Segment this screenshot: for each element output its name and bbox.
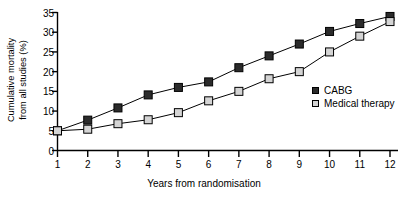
x-tick-label: 9 xyxy=(287,159,311,170)
x-tick-label: 5 xyxy=(166,159,190,170)
x-tick-label: 10 xyxy=(318,159,342,170)
x-tick-label: 2 xyxy=(76,159,100,170)
open-square-icon xyxy=(312,100,319,107)
x-axis-title: Years from randomisation xyxy=(0,178,408,189)
x-tick-label: 12 xyxy=(378,159,402,170)
legend-item-cabg: CABG xyxy=(312,84,395,97)
x-tick-label: 8 xyxy=(257,159,281,170)
filled-square-icon xyxy=(312,87,319,94)
legend-label: CABG xyxy=(324,85,352,96)
x-tick-label: 4 xyxy=(136,159,160,170)
chart-figure: Cumulative mortality from all studies (%… xyxy=(0,0,408,200)
x-tick-label: 6 xyxy=(197,159,221,170)
legend-label: Medical therapy xyxy=(324,98,395,109)
x-tick-label: 1 xyxy=(46,159,70,170)
x-tick-label: 7 xyxy=(227,159,251,170)
x-tick-label: 11 xyxy=(348,159,372,170)
legend-item-medical-therapy: Medical therapy xyxy=(312,97,395,110)
x-tick-label: 3 xyxy=(106,159,130,170)
chart-legend: CABG Medical therapy xyxy=(312,84,395,110)
